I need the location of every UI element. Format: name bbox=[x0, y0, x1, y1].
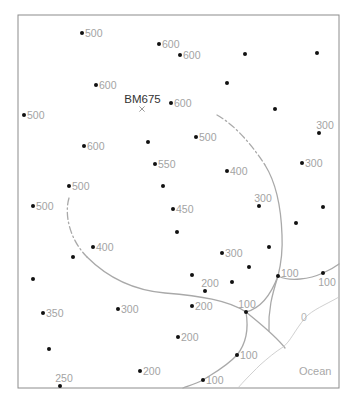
spot-height-label: 100 bbox=[206, 374, 224, 386]
spot-height-label: 400 bbox=[96, 241, 114, 253]
spot-dot-icon bbox=[58, 384, 62, 388]
spot-dot-icon bbox=[146, 140, 150, 144]
spot-dot-icon bbox=[244, 310, 248, 314]
contour-left-arc-dashed bbox=[67, 198, 87, 257]
spot-height-label: 200 bbox=[181, 331, 199, 343]
spot-height: 450 bbox=[171, 203, 194, 215]
spot-height bbox=[243, 52, 247, 56]
contour-southeast-branch bbox=[246, 312, 285, 348]
benchmark-label: BM675 bbox=[124, 93, 160, 105]
spot-height-label: 600 bbox=[99, 79, 117, 91]
spot-height-label: 500 bbox=[36, 200, 54, 212]
spot-dot-icon bbox=[273, 107, 277, 111]
spot-height-label: 200 bbox=[201, 277, 219, 289]
spot-height bbox=[273, 107, 277, 111]
spot-height-label: 500 bbox=[27, 109, 45, 121]
spot-height bbox=[47, 347, 51, 351]
spot-dot-icon bbox=[267, 245, 271, 249]
spot-height-label: 300 bbox=[316, 119, 334, 131]
benchmark-marker: BM675 bbox=[124, 93, 160, 112]
spot-height: 500 bbox=[80, 27, 103, 39]
spot-height bbox=[71, 255, 75, 259]
spot-height: 400 bbox=[225, 165, 248, 177]
spot-dot-icon bbox=[203, 289, 207, 293]
spot-height bbox=[225, 81, 229, 85]
contour-south-branch bbox=[269, 276, 278, 331]
spot-height-label: 550 bbox=[158, 158, 176, 170]
spot-height: 600 bbox=[169, 97, 192, 109]
spot-height-label: 300 bbox=[121, 303, 139, 315]
spot-dot-icon bbox=[321, 271, 325, 275]
spot-height-label: 450 bbox=[176, 203, 194, 215]
spot-height: 250 bbox=[55, 372, 73, 389]
spot-dot-icon bbox=[190, 304, 194, 308]
spot-height: 300 bbox=[220, 247, 243, 259]
spot-dot-icon bbox=[175, 230, 179, 234]
spot-height: 300 bbox=[300, 157, 323, 169]
spot-height: 100 bbox=[235, 349, 258, 361]
spot-height: 200 bbox=[190, 300, 213, 312]
spot-dot-icon bbox=[31, 277, 35, 281]
spot-dot-icon bbox=[225, 169, 229, 173]
spot-height-label: 250 bbox=[55, 372, 73, 384]
spot-dot-icon bbox=[220, 251, 224, 255]
spot-height-label: 100 bbox=[281, 267, 299, 279]
spot-height bbox=[190, 273, 194, 277]
spot-height-label: 500 bbox=[199, 131, 217, 143]
spot-dot-icon bbox=[171, 207, 175, 211]
spot-height: 550 bbox=[153, 158, 176, 170]
spot-height: 500 bbox=[67, 180, 90, 192]
spot-height-label: 200 bbox=[143, 365, 161, 377]
spot-dot-icon bbox=[169, 101, 173, 105]
spot-height bbox=[294, 221, 298, 225]
spot-dot-icon bbox=[321, 205, 325, 209]
spot-dot-icon bbox=[153, 162, 157, 166]
spot-height: 200 bbox=[201, 277, 219, 294]
spot-dot-icon bbox=[138, 369, 142, 373]
spot-dot-icon bbox=[276, 274, 280, 278]
spot-dot-icon bbox=[80, 31, 84, 35]
spot-dot-icon bbox=[230, 280, 234, 284]
spot-height: 300 bbox=[254, 192, 272, 209]
zero-contour-label: 0 bbox=[301, 311, 307, 323]
spot-height-label: 200 bbox=[195, 300, 213, 312]
spot-height: 400 bbox=[91, 241, 114, 253]
ocean-label: Ocean bbox=[299, 365, 331, 377]
spot-dot-icon bbox=[235, 353, 239, 357]
spot-height: 300 bbox=[116, 303, 139, 315]
spot-height bbox=[146, 140, 150, 144]
spot-height: 300 bbox=[316, 119, 334, 136]
spot-height: 600 bbox=[178, 49, 201, 61]
spot-dot-icon bbox=[67, 184, 71, 188]
spot-dot-icon bbox=[71, 255, 75, 259]
spot-height-label: 400 bbox=[230, 165, 248, 177]
spot-height-map: 5006006006005006003005006005504003005003… bbox=[0, 0, 353, 399]
spot-height bbox=[161, 184, 165, 188]
spot-height-label: 600 bbox=[183, 49, 201, 61]
spot-dot-icon bbox=[91, 245, 95, 249]
spot-dot-icon bbox=[157, 42, 161, 46]
contour-upper-arc bbox=[265, 165, 282, 276]
spot-height: 500 bbox=[194, 131, 217, 143]
spot-height: 600 bbox=[82, 140, 105, 152]
spot-dot-icon bbox=[294, 221, 298, 225]
spot-height: 600 bbox=[94, 79, 117, 91]
spot-dot-icon bbox=[243, 52, 247, 56]
spot-height: 200 bbox=[138, 365, 161, 377]
contour-left-arc bbox=[87, 257, 246, 312]
spot-height-label: 500 bbox=[72, 180, 90, 192]
map-frame bbox=[18, 15, 339, 388]
spot-dot-icon bbox=[190, 273, 194, 277]
spot-height-label: 300 bbox=[305, 157, 323, 169]
spot-dot-icon bbox=[161, 184, 165, 188]
spot-height bbox=[31, 277, 35, 281]
spot-height: 600 bbox=[157, 38, 180, 50]
spot-height-label: 300 bbox=[254, 192, 272, 204]
spot-height: 100 bbox=[201, 374, 224, 386]
spot-height-label: 300 bbox=[225, 247, 243, 259]
spot-height: 200 bbox=[176, 331, 199, 343]
cross-icon bbox=[139, 106, 144, 111]
spot-dot-icon bbox=[31, 204, 35, 208]
spot-dot-icon bbox=[116, 307, 120, 311]
spot-dot-icon bbox=[22, 113, 26, 117]
